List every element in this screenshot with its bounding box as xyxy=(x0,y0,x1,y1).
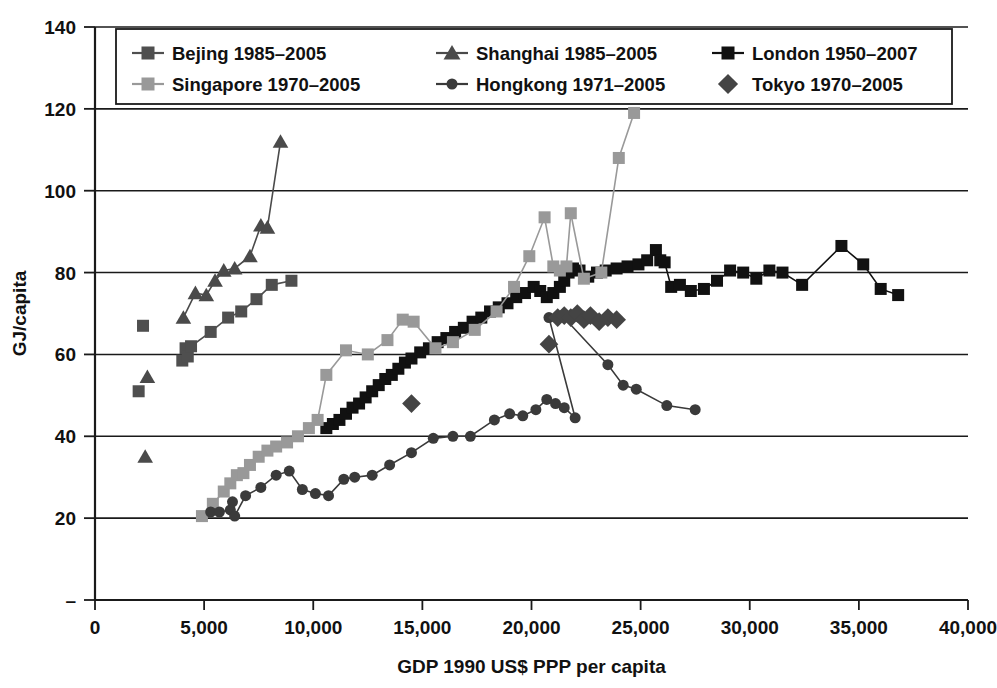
data-point xyxy=(465,431,476,442)
ytick-label-20: 20 xyxy=(55,508,76,529)
ytick-label-40: 40 xyxy=(55,426,76,447)
data-point xyxy=(428,433,439,444)
legend-entry-singapore[interactable]: Singapore 1970–2005 xyxy=(132,74,360,95)
x-axis-title: GDP 1990 US$ PPP per capita xyxy=(397,656,666,677)
series-tokyo xyxy=(402,304,626,413)
data-point xyxy=(362,348,374,360)
data-point xyxy=(367,470,378,481)
data-point xyxy=(737,267,749,279)
data-point xyxy=(185,340,197,352)
data-point xyxy=(242,249,258,263)
data-point xyxy=(381,334,393,346)
ytick-label-140: 140 xyxy=(44,17,76,38)
data-point xyxy=(517,410,528,421)
legend-label: Singapore 1970–2005 xyxy=(172,74,360,95)
legend-marker-square-icon xyxy=(722,47,735,60)
data-point xyxy=(292,430,304,442)
data-point xyxy=(285,275,297,287)
ytick-label-120: 120 xyxy=(44,99,76,120)
data-point xyxy=(491,305,503,317)
data-point xyxy=(222,312,234,324)
xtick-label-0: 0 xyxy=(90,617,101,638)
data-point xyxy=(323,490,334,501)
data-point xyxy=(685,285,697,297)
data-point xyxy=(690,404,701,415)
legend-marker-square-icon xyxy=(142,47,155,60)
xtick-label-5000: 5,000 xyxy=(180,617,228,638)
data-point xyxy=(875,283,887,295)
data-point xyxy=(133,385,145,397)
data-point xyxy=(137,320,149,332)
data-point xyxy=(137,449,153,463)
xtick-label-30000: 30,000 xyxy=(721,617,779,638)
data-point xyxy=(508,281,520,293)
data-point xyxy=(698,283,710,295)
ytick-label-80: 80 xyxy=(55,263,76,284)
data-point xyxy=(205,326,217,338)
y-axis-title: GJ/capita xyxy=(9,270,30,356)
data-point xyxy=(489,414,500,425)
data-point xyxy=(796,279,808,291)
data-point xyxy=(429,342,441,354)
legend-label: Hongkong 1971–2005 xyxy=(476,74,665,95)
data-point xyxy=(523,250,535,262)
legend-entry-bejing[interactable]: Bejing 1985–2005 xyxy=(132,43,326,64)
xtick-label-25000: 25,000 xyxy=(612,617,670,638)
data-point xyxy=(659,256,671,268)
legend-label: Tokyo 1970–2005 xyxy=(752,74,903,95)
data-point xyxy=(240,490,251,501)
data-point xyxy=(251,293,263,305)
data-point xyxy=(176,310,192,324)
data-point xyxy=(235,305,247,317)
data-point xyxy=(661,400,672,411)
data-point xyxy=(408,316,420,328)
legend-entry-hongkong[interactable]: Hongkong 1971–2005 xyxy=(436,74,665,95)
data-point xyxy=(613,152,625,164)
data-point xyxy=(273,134,289,148)
ytick-label-0: – xyxy=(65,590,76,611)
data-point xyxy=(835,240,847,252)
data-point xyxy=(776,267,788,279)
data-point xyxy=(631,384,642,395)
data-point xyxy=(447,431,458,442)
xtick-label-40000: 40,000 xyxy=(939,617,997,638)
legend-entry-tokyo[interactable]: Tokyo 1970–2005 xyxy=(718,74,903,95)
gdp-energy-scatter-chart: –2040608010012014005,00010,00015,00020,0… xyxy=(0,0,997,688)
data-point xyxy=(270,441,282,453)
data-point xyxy=(622,260,634,272)
data-point xyxy=(559,402,570,413)
legend-label: Shanghai 1985–2005 xyxy=(476,43,657,64)
data-point xyxy=(229,511,240,522)
data-point xyxy=(214,507,225,518)
legend-entry-london[interactable]: London 1950–2007 xyxy=(712,43,918,64)
legend-entry-shanghai[interactable]: Shanghai 1985–2005 xyxy=(436,43,657,64)
data-point xyxy=(650,244,662,256)
data-point xyxy=(227,496,238,507)
legend-marker-circle-icon xyxy=(447,79,458,90)
data-point xyxy=(384,459,395,470)
data-point xyxy=(570,412,581,423)
data-point xyxy=(892,289,904,301)
data-point xyxy=(711,275,723,287)
xtick-label-35000: 35,000 xyxy=(830,617,888,638)
data-point xyxy=(402,394,421,413)
legend-label: Bejing 1985–2005 xyxy=(172,43,326,64)
data-point xyxy=(271,470,282,481)
data-point xyxy=(266,279,278,291)
legend-label: London 1950–2007 xyxy=(752,43,918,64)
data-point xyxy=(406,447,417,458)
data-point xyxy=(140,369,156,383)
data-point xyxy=(281,436,293,448)
chart-legend: Bejing 1985–2005Shanghai 1985–2005London… xyxy=(116,29,952,104)
data-point xyxy=(595,267,607,279)
chart-container: –2040608010012014005,00010,00015,00020,0… xyxy=(0,0,997,688)
data-point xyxy=(397,314,409,326)
data-point xyxy=(628,107,640,119)
series-bejing xyxy=(133,275,298,398)
data-point xyxy=(255,482,266,493)
data-point xyxy=(338,474,349,485)
data-point xyxy=(560,260,572,272)
data-point xyxy=(618,380,629,391)
xtick-label-10000: 10,000 xyxy=(284,617,342,638)
data-point xyxy=(340,344,352,356)
